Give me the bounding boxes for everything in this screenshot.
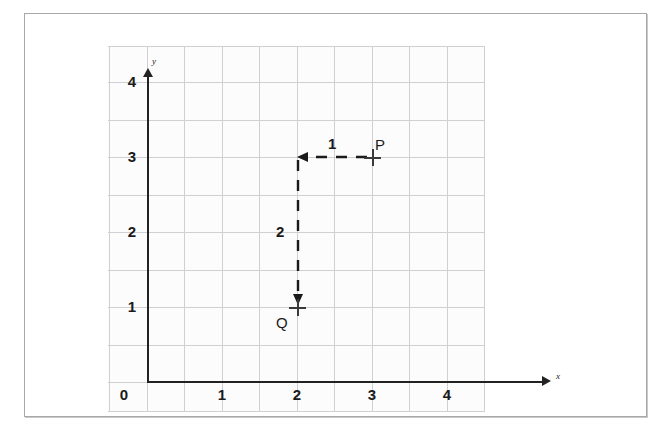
tick-label-y-3: 3 (122, 148, 142, 165)
gridline-horizontal (108, 157, 485, 158)
point-label-p: P (375, 136, 385, 153)
page-frame: x y 0 1 2 3 4 1 2 3 4 (24, 13, 647, 417)
gridline-horizontal (108, 82, 485, 83)
segment-label-horizontal: 1 (328, 135, 336, 152)
tick-label-x-2: 2 (287, 386, 307, 403)
gridline-vertical (372, 46, 373, 412)
gridline-vertical (259, 46, 260, 412)
tick-label-y-2: 2 (122, 223, 142, 240)
coordinate-plot: x y 0 1 2 3 4 1 2 3 4 (108, 46, 485, 412)
y-axis (147, 76, 149, 383)
y-axis-arrow-icon (143, 68, 153, 77)
gridline-horizontal (108, 411, 485, 412)
segment-label-vertical: 2 (276, 223, 284, 240)
tick-label-x-4: 4 (437, 386, 457, 403)
gridline-vertical (334, 46, 335, 412)
gridline-horizontal (108, 345, 485, 346)
gridline-vertical (222, 46, 223, 412)
gridline-horizontal (108, 232, 485, 233)
gridline-vertical (447, 46, 448, 412)
tick-label-y-1: 1 (122, 298, 142, 315)
gridline-vertical (109, 46, 110, 412)
gridline-vertical (484, 46, 485, 412)
gridline-vertical (297, 46, 298, 412)
gridline-horizontal (108, 195, 485, 196)
tick-label-y-4: 4 (122, 73, 142, 90)
diagram-page: x y 0 1 2 3 4 1 2 3 4 (0, 0, 669, 436)
gridline-vertical (409, 46, 410, 412)
gridline-horizontal (108, 46, 485, 47)
gridline-vertical (184, 46, 185, 412)
x-axis (147, 381, 545, 383)
tick-label-origin: 0 (114, 386, 134, 403)
x-axis-arrow-icon (542, 376, 551, 386)
gridline-horizontal (108, 270, 485, 271)
tick-label-x-3: 3 (362, 386, 382, 403)
point-marker-q[interactable] (289, 299, 306, 316)
point-label-q: Q (276, 314, 288, 331)
tick-label-x-1: 1 (212, 386, 232, 403)
x-axis-label: x (556, 371, 560, 381)
y-axis-label: y (152, 56, 156, 66)
gridline-horizontal (108, 120, 485, 121)
